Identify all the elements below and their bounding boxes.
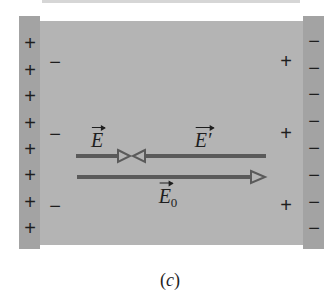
field-arrows xyxy=(0,0,336,302)
e-field-arrow xyxy=(76,150,130,162)
e-prime-field-arrow xyxy=(133,150,266,162)
e-label: E xyxy=(91,130,103,150)
e0-label: E0 xyxy=(159,186,178,213)
figure-caption: (c) xyxy=(160,270,180,291)
e-prime-label: E′ xyxy=(195,130,212,150)
